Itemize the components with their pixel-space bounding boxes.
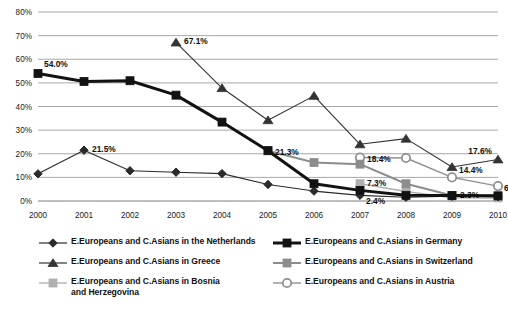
data-point-marker: [310, 158, 318, 166]
legend-item[interactable]: E.Europeans and C.Asians in Germany: [272, 236, 508, 249]
data-point-marker: [402, 154, 410, 162]
x-axis-tick-label: 2008: [397, 211, 416, 220]
data-point-marker: [126, 77, 134, 85]
x-axis-tick-label: 2004: [213, 211, 232, 220]
y-axis-tick-label: 70%: [16, 32, 32, 41]
legend-swatch-icon: [38, 237, 68, 249]
data-point-marker: [448, 173, 456, 181]
data-point-label: 21.5%: [92, 144, 116, 154]
data-point-marker: [34, 69, 42, 77]
data-point-label: 2.4%: [366, 196, 386, 206]
data-point-marker: [356, 186, 364, 194]
data-point-marker: [310, 180, 318, 188]
data-point-marker: [356, 160, 364, 168]
plot-area: 0%10%20%30%40%50%60%70%80%20002001200220…: [0, 0, 508, 232]
data-point-marker: [309, 92, 319, 100]
y-axis-tick-label: 80%: [16, 8, 32, 17]
y-axis-tick-label: 0%: [20, 197, 32, 206]
data-point-marker: [49, 239, 57, 247]
legend-item[interactable]: E.Europeans and C.Asians in Bosnia and H…: [38, 276, 278, 297]
legend-marker-icon: [272, 257, 302, 269]
data-point-marker: [493, 155, 503, 163]
legend-swatch-icon: [272, 277, 302, 289]
legend-swatch-icon: [38, 277, 68, 289]
data-point-marker: [171, 38, 181, 46]
data-point-label: 67.1%: [184, 36, 208, 46]
legend-item-label: E.Europeans and C.Asians in Austria: [305, 276, 454, 287]
x-axis-tick-label: 2007: [351, 211, 370, 220]
legend-item-label: E.Europeans and C.Asians in Greece: [71, 256, 220, 267]
data-point-label: 54.0%: [44, 59, 68, 69]
data-point-marker: [283, 279, 291, 287]
data-point-marker: [218, 118, 226, 126]
data-point-marker: [283, 259, 291, 267]
data-point-marker: [494, 182, 502, 190]
data-point-label: 17.6%: [468, 146, 492, 156]
data-point-marker: [402, 180, 410, 188]
legend-item-label: E.Europeans and C.Asians in Switzerland: [305, 256, 473, 267]
data-point-marker: [218, 169, 226, 177]
data-point-marker: [49, 279, 57, 287]
data-point-marker: [172, 168, 180, 176]
data-point-label: 6.3%: [504, 183, 508, 193]
data-point-marker: [401, 134, 411, 142]
data-point-marker: [172, 91, 180, 99]
data-point-label: 2.3%: [460, 190, 480, 200]
legend-swatch-icon: [38, 257, 68, 269]
x-axis-tick-label: 2009: [443, 211, 462, 220]
legend-marker-icon: [38, 237, 68, 249]
data-point-marker: [448, 192, 456, 200]
chart-legend: E.Europeans and C.Asians in the Netherla…: [0, 236, 508, 309]
data-point-label: 7.3%: [367, 178, 387, 188]
legend-swatch-icon: [272, 237, 302, 249]
y-axis-tick-label: 10%: [16, 173, 32, 182]
legend-item-label: E.Europeans and C.Asians in Bosnia and H…: [71, 276, 220, 297]
data-point-marker: [402, 191, 410, 199]
legend-marker-icon: [38, 277, 68, 289]
legend-marker-icon: [38, 257, 68, 269]
data-point-marker: [34, 170, 42, 178]
legend-column-left: E.Europeans and C.Asians in the Netherla…: [38, 236, 278, 304]
x-axis-tick-label: 2006: [305, 211, 324, 220]
legend-item[interactable]: E.Europeans and C.Asians in the Netherla…: [38, 236, 278, 249]
x-axis-tick-label: 2003: [167, 211, 186, 220]
legend-marker-icon: [272, 277, 302, 289]
x-axis-tick-label: 2000: [29, 211, 48, 220]
line-chart: 0%10%20%30%40%50%60%70%80%20002001200220…: [0, 0, 508, 309]
legend-item-label: E.Europeans and C.Asians in Germany: [305, 236, 462, 247]
data-point-label: 21.3%: [275, 147, 299, 157]
legend-item[interactable]: E.Europeans and C.Asians in Switzerland: [272, 256, 508, 269]
series-line: [176, 42, 498, 167]
legend-item[interactable]: E.Europeans and C.Asians in Austria: [272, 276, 508, 289]
legend-item-label: E.Europeans and C.Asians in the Netherla…: [71, 236, 256, 247]
y-axis-tick-label: 30%: [16, 126, 32, 135]
data-point-marker: [264, 180, 272, 188]
legend-column-right: E.Europeans and C.Asians in GermanyE.Eur…: [272, 236, 508, 296]
y-axis-tick-label: 20%: [16, 150, 32, 159]
chart-series: [171, 38, 503, 170]
chart-canvas: 0%10%20%30%40%50%60%70%80%20002001200220…: [0, 0, 508, 232]
data-point-marker: [80, 146, 88, 154]
legend-item[interactable]: E.Europeans and C.Asians in Greece: [38, 256, 278, 269]
data-point-label: 14.4%: [459, 165, 483, 175]
data-point-marker: [494, 192, 502, 200]
data-point-marker: [80, 77, 88, 85]
y-axis-tick-label: 40%: [16, 103, 32, 112]
x-axis-tick-label: 2001: [75, 211, 94, 220]
y-axis-tick-label: 60%: [16, 55, 32, 64]
data-point-marker: [283, 239, 291, 247]
data-point-label: 18.4%: [367, 154, 391, 164]
data-point-marker: [126, 167, 134, 175]
legend-swatch-icon: [272, 257, 302, 269]
x-axis-tick-label: 2010: [489, 211, 508, 220]
legend-marker-icon: [272, 237, 302, 249]
y-axis-tick-label: 50%: [16, 79, 32, 88]
x-axis-tick-label: 2002: [121, 211, 140, 220]
x-axis-tick-label: 2005: [259, 211, 278, 220]
data-point-marker: [264, 147, 272, 155]
